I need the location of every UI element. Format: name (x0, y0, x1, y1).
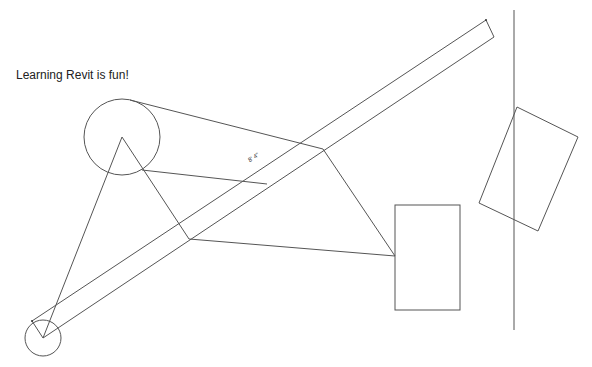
tangent-line-lower[interactable] (142, 170, 267, 184)
tangent-line-top[interactable] (130, 100, 323, 149)
triangle-lines[interactable] (43, 137, 189, 338)
upright-rectangle[interactable] (395, 205, 460, 310)
endpoint-marker-top (485, 19, 487, 21)
quad-edge-right[interactable] (323, 149, 395, 256)
quad-edge-bottom[interactable] (189, 239, 395, 256)
endpoint-marker-bottom (31, 320, 33, 322)
text-note[interactable]: Learning Revit is fun! (16, 68, 129, 82)
rotated-rectangle[interactable] (479, 107, 578, 231)
drawing-canvas[interactable] (0, 0, 592, 367)
